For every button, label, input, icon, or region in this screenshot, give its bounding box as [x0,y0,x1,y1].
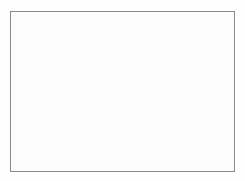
map-frame-outline [11,12,235,172]
world-distribution-map [0,0,245,181]
map-canvas [0,0,245,181]
